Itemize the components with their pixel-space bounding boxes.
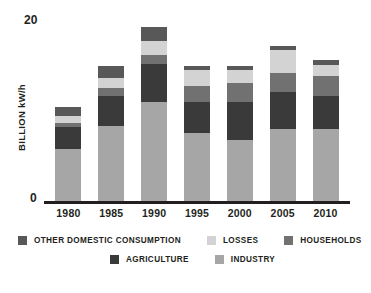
bar-segment-agriculture (313, 96, 339, 129)
bar-segment-industry (141, 102, 167, 202)
legend-row-secondary: AGRICULTUREINDUSTRY (0, 250, 371, 269)
x-axis-label-1990: 1990 (133, 207, 175, 219)
bar-1995 (184, 66, 210, 202)
bar-segment-industry (227, 140, 253, 202)
bar-segment-industry (98, 126, 124, 202)
legend-row-primary: OTHER DOMESTIC CONSUMPTIONLOSSESHOUSEHOL… (0, 231, 371, 250)
bar-1985 (98, 66, 124, 202)
bar-segment-industry (184, 133, 210, 202)
bar-segment-industry (313, 129, 339, 202)
x-axis-label-2000: 2000 (219, 207, 261, 219)
x-axis-label-1985: 1985 (90, 207, 132, 219)
legend-item-industry: INDUSTRY (215, 255, 275, 264)
bar-segment-agriculture (141, 64, 167, 102)
legend-item-losses: LOSSES (207, 236, 258, 245)
legend-swatch-icon (18, 236, 27, 245)
y-axis-tick-min: 0 (30, 191, 37, 205)
bar-segment-losses (227, 70, 253, 83)
bar-segment-households (141, 55, 167, 64)
chart-legend: OTHER DOMESTIC CONSUMPTIONLOSSESHOUSEHOL… (0, 231, 371, 269)
bar-segment-households (270, 73, 296, 92)
stacked-bar-chart: 20 0 BILLION kW/h 1980198519901995200020… (0, 0, 371, 293)
bar-1990 (141, 27, 167, 202)
bar-segment-other-domestic-consumption (55, 107, 81, 115)
legend-swatch-icon (207, 236, 216, 245)
x-axis-line (44, 201, 350, 204)
legend-swatch-icon (284, 236, 293, 245)
legend-swatch-icon (110, 255, 119, 264)
bar-segment-industry (270, 129, 296, 202)
bar-segment-other-domestic-consumption (141, 27, 167, 41)
bar-segment-households (227, 83, 253, 102)
legend-item-other-domestic-consumption: OTHER DOMESTIC CONSUMPTION (18, 236, 181, 245)
bar-segment-agriculture (270, 92, 296, 129)
bar-segment-losses (270, 50, 296, 73)
bar-segment-other-domestic-consumption (98, 66, 124, 78)
y-axis-title: BILLION kW/h (16, 73, 27, 163)
bar-segment-losses (141, 41, 167, 55)
x-axis-label-1995: 1995 (176, 207, 218, 219)
legend-label: AGRICULTURE (126, 255, 189, 264)
bar-segment-agriculture (55, 127, 81, 149)
bar-segment-agriculture (98, 96, 124, 125)
bar-segment-households (313, 76, 339, 97)
bar-2005 (270, 46, 296, 203)
bar-segment-losses (98, 78, 124, 88)
x-axis-label-1980: 1980 (47, 207, 89, 219)
legend-item-households: HOUSEHOLDS (284, 236, 361, 245)
x-axis-label-2010: 2010 (305, 207, 347, 219)
bar-segment-agriculture (184, 102, 210, 133)
legend-item-agriculture: AGRICULTURE (110, 255, 189, 264)
x-axis-label-2005: 2005 (262, 207, 304, 219)
bar-segment-households (98, 88, 124, 96)
legend-swatch-icon (215, 255, 224, 264)
bar-segment-industry (55, 149, 81, 202)
bar-segment-losses (184, 70, 210, 86)
bar-segment-losses (55, 116, 81, 123)
legend-label: LOSSES (223, 236, 258, 245)
legend-label: OTHER DOMESTIC CONSUMPTION (34, 236, 181, 245)
bar-segment-households (184, 86, 210, 101)
bar-1980 (55, 107, 81, 202)
bar-2000 (227, 66, 253, 202)
legend-label: INDUSTRY (231, 255, 275, 264)
bar-segment-agriculture (227, 102, 253, 140)
plot-area (47, 20, 347, 202)
x-axis-tick-labels: 1980198519901995200020052010 (47, 207, 347, 223)
bar-segment-losses (313, 65, 339, 76)
bar-2010 (313, 60, 339, 202)
y-axis-tick-max: 20 (24, 13, 38, 27)
legend-label: HOUSEHOLDS (300, 236, 361, 245)
